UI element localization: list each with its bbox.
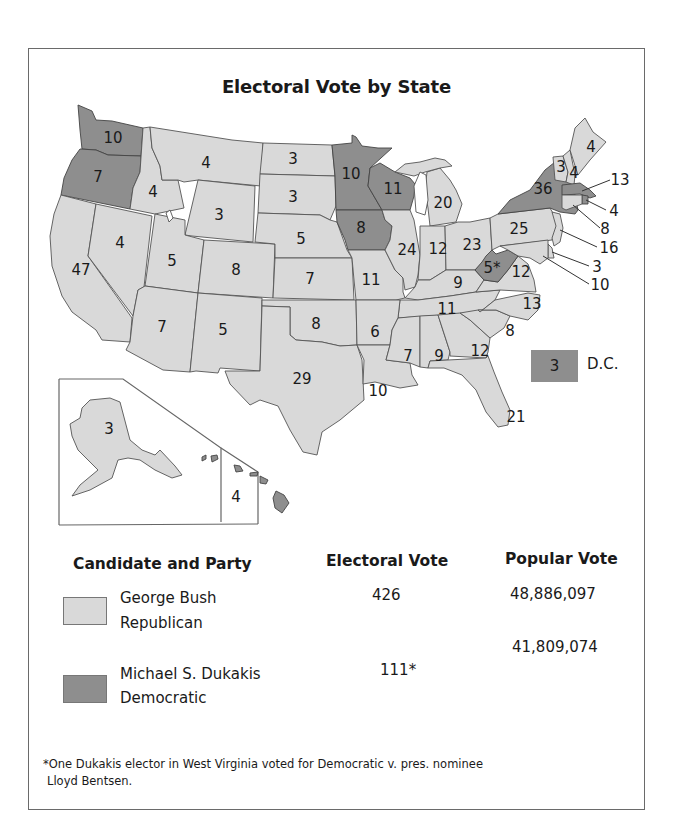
swatch-republican bbox=[63, 597, 107, 625]
ev-GA: 12 bbox=[470, 342, 489, 360]
ev-OK: 8 bbox=[311, 315, 321, 333]
popular-vote-dukakis: 41,809,074 bbox=[512, 637, 598, 657]
ev-DE: 3 bbox=[592, 258, 602, 276]
ev-OH: 23 bbox=[462, 236, 481, 254]
state-DE bbox=[548, 244, 554, 258]
dc-swatch: 3 bbox=[531, 350, 578, 382]
leader-RI bbox=[586, 200, 606, 210]
ev-VA: 12 bbox=[511, 263, 530, 281]
ev-NC: 13 bbox=[522, 295, 541, 313]
ev-ND: 3 bbox=[288, 150, 298, 168]
ev-NE: 5 bbox=[296, 230, 306, 248]
legend-header-candidate: Candidate and Party bbox=[73, 555, 252, 573]
state-HI-6 bbox=[273, 491, 289, 513]
legend-header-electoral: Electoral Vote bbox=[326, 552, 448, 570]
electoral-vote-dukakis: 111* bbox=[380, 660, 416, 680]
ev-LA: 10 bbox=[368, 382, 387, 400]
ev-WY: 3 bbox=[214, 206, 224, 224]
ev-TN: 11 bbox=[437, 300, 456, 318]
ev-MO: 11 bbox=[361, 271, 380, 289]
ev-NV: 4 bbox=[115, 234, 125, 252]
leader-MA bbox=[582, 180, 610, 191]
candidate-name: Michael S. Dukakis bbox=[120, 664, 261, 684]
ev-WI: 11 bbox=[383, 180, 402, 198]
leader-CT bbox=[573, 205, 600, 228]
ev-MT: 4 bbox=[201, 154, 211, 172]
electoral-vote-bush: 426 bbox=[372, 585, 401, 605]
ev-RI: 4 bbox=[609, 202, 619, 220]
state-HI-2 bbox=[211, 455, 218, 462]
legend-row-bush: George Bush Republican bbox=[120, 588, 217, 633]
ev-CT: 8 bbox=[600, 220, 610, 238]
state-CT bbox=[562, 195, 582, 210]
ev-MD: 10 bbox=[590, 276, 609, 294]
ev-KY: 9 bbox=[453, 274, 463, 292]
ev-AR: 6 bbox=[370, 323, 380, 341]
state-HI-5 bbox=[260, 476, 268, 484]
state-HI-4 bbox=[250, 472, 258, 476]
ev-OR: 7 bbox=[93, 168, 103, 186]
footnote-line-2: Lloyd Bentsen. bbox=[43, 773, 623, 790]
candidate-party: Democratic bbox=[120, 688, 261, 708]
ev-WV: 5* bbox=[483, 259, 501, 277]
inset-bottom bbox=[59, 524, 258, 525]
state-AK bbox=[70, 398, 182, 496]
candidate-name: George Bush bbox=[120, 588, 217, 608]
ev-ID: 4 bbox=[148, 183, 158, 201]
leader-DE bbox=[552, 252, 589, 266]
ev-NJ: 16 bbox=[599, 239, 618, 257]
ev-SC: 8 bbox=[505, 322, 515, 340]
ev-FL: 21 bbox=[506, 408, 525, 426]
ev-UT: 5 bbox=[167, 252, 177, 270]
state-HI-3 bbox=[234, 465, 243, 472]
lake-michigan bbox=[414, 172, 428, 215]
ev-WA: 10 bbox=[103, 129, 122, 147]
popular-vote-bush: 48,886,097 bbox=[510, 584, 596, 604]
ev-IN: 12 bbox=[428, 240, 447, 258]
legend-header-popular: Popular Vote bbox=[505, 550, 618, 568]
ev-KS: 7 bbox=[305, 270, 315, 288]
leader-NJ bbox=[560, 230, 597, 247]
hawaii-inset-border bbox=[221, 448, 258, 524]
legend-row-dukakis: Michael S. Dukakis Democratic bbox=[120, 664, 261, 708]
ev-PA: 25 bbox=[509, 220, 528, 238]
ev-HI: 4 bbox=[231, 488, 241, 506]
us-electoral-map: 10 7 47 4 4 4 3 5 8 7 5 3 3 5 7 8 29 10 … bbox=[0, 0, 673, 560]
ev-MN: 10 bbox=[341, 165, 360, 183]
swatch-democratic bbox=[63, 675, 107, 703]
candidate-party: Republican bbox=[120, 613, 217, 633]
ev-NM: 5 bbox=[218, 321, 228, 339]
dc-label: D.C. bbox=[587, 355, 619, 373]
ev-IA: 8 bbox=[356, 219, 366, 237]
footnote: *One Dukakis elector in West Virginia vo… bbox=[43, 756, 623, 790]
ev-AK: 3 bbox=[104, 420, 114, 438]
state-FL bbox=[428, 356, 510, 427]
leader-MD bbox=[543, 256, 589, 284]
ev-CA: 47 bbox=[71, 261, 90, 279]
ev-VT: 3 bbox=[556, 158, 566, 176]
ev-TX: 29 bbox=[292, 370, 311, 388]
ev-SD: 3 bbox=[288, 188, 298, 206]
ev-IL: 24 bbox=[397, 241, 416, 259]
dc-ev: 3 bbox=[550, 357, 560, 375]
ev-ME: 4 bbox=[586, 138, 596, 156]
state-HI-1 bbox=[202, 455, 206, 461]
ev-MI: 20 bbox=[433, 194, 452, 212]
footnote-line-1: *One Dukakis elector in West Virginia vo… bbox=[43, 756, 623, 773]
state-RI bbox=[582, 195, 588, 204]
ev-MA: 13 bbox=[610, 171, 629, 189]
ev-CO: 8 bbox=[231, 261, 241, 279]
ev-NY: 36 bbox=[533, 180, 552, 198]
ev-AL: 9 bbox=[434, 347, 444, 365]
ev-NH: 4 bbox=[569, 164, 579, 182]
ev-AZ: 7 bbox=[157, 318, 167, 336]
ev-MS: 7 bbox=[403, 347, 413, 365]
